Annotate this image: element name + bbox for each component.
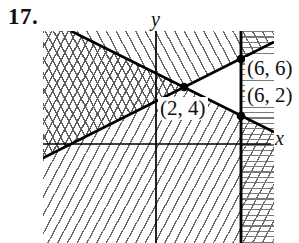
x-axis-label: x [274,128,285,148]
textbook-figure: 17. y x (2, 4) (6, 6) (6, 2) [0,0,299,243]
point-dot-2-4 [180,83,189,92]
y-axis-label: y [150,9,161,29]
point-dot-6-2 [237,112,246,121]
graph-lines [43,31,274,243]
point-label-2-4: (2, 4) [158,97,208,120]
point-dot-6-6 [237,55,246,64]
problem-number: 17. [8,4,38,30]
point-label-6-6: (6, 6) [245,57,295,80]
coordinate-plane [43,31,274,243]
point-label-6-2: (6, 2) [245,84,295,107]
